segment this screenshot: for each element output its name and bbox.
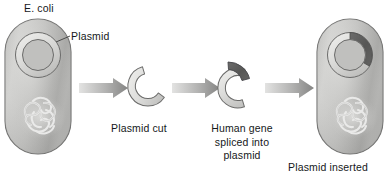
chromosomal-dna-stage1 xyxy=(14,95,66,139)
arrow-3 xyxy=(265,78,314,98)
stage-plasmid-inserted xyxy=(317,19,383,154)
plasmid-insertion-diagram: E. coli Plasmid Plasmid cut Human gene s… xyxy=(0,0,388,179)
label-human-gene-line-1: Human gene xyxy=(196,122,288,136)
stage-gene-spliced xyxy=(212,62,256,111)
recombinant-plasmid-ring xyxy=(328,33,373,78)
diagram-artwork xyxy=(0,0,388,179)
chromosomal-dna-stage4 xyxy=(326,95,378,139)
label-plasmid-cut: Plasmid cut xyxy=(111,122,167,136)
label-human-gene-spliced: Human gene spliced into plasmid xyxy=(196,122,288,163)
label-ecoli: E. coli xyxy=(24,2,54,16)
stage-ecoli-with-plasmid xyxy=(5,19,71,154)
plasmid-ring-stage1 xyxy=(16,33,61,78)
label-plasmid: Plasmid xyxy=(71,30,109,44)
arrow-2 xyxy=(172,78,220,98)
plasmid-cut-ring xyxy=(123,63,165,110)
arrow-1 xyxy=(79,78,128,98)
label-human-gene-line-2: spliced into xyxy=(196,136,288,150)
label-human-gene-line-3: plasmid xyxy=(196,149,288,163)
stage-plasmid-cut xyxy=(123,63,165,110)
label-plasmid-inserted: Plasmid inserted xyxy=(288,161,368,175)
